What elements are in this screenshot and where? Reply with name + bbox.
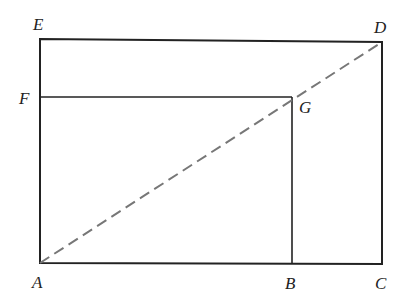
geometry-diagram: E D F G A B C	[0, 0, 406, 299]
label-c: C	[375, 274, 387, 293]
label-b: B	[285, 274, 296, 293]
label-a: A	[31, 273, 43, 292]
label-g: G	[299, 98, 311, 117]
label-e: E	[32, 15, 44, 34]
label-d: D	[373, 18, 387, 37]
diagonal-ad-dashed	[40, 42, 382, 263]
label-f: F	[18, 89, 30, 108]
